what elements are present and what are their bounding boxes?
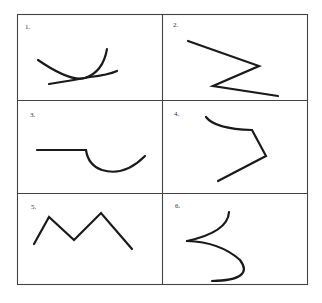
- cell-6-upper-curve: [187, 212, 229, 241]
- cell-2: 2.: [173, 21, 278, 96]
- cell-4-label: 4.: [174, 110, 180, 118]
- cell-1-arc-a: [38, 49, 107, 79]
- cell-6-lower-curve: [187, 241, 244, 281]
- cell-1: 1.: [25, 23, 117, 84]
- cell-4-bent-line: [206, 117, 266, 181]
- cell-6-label: 6.: [175, 202, 181, 210]
- cell-5: 5.: [31, 203, 132, 249]
- cell-6: 6.: [175, 202, 244, 281]
- cell-2-label: 2.: [173, 21, 179, 29]
- cell-3-hook: [37, 150, 145, 172]
- cell-3: 3.: [30, 111, 145, 172]
- cell-1-label: 1.: [25, 23, 31, 31]
- cell-4: 4.: [174, 110, 266, 181]
- cell-5-zigzag: [34, 213, 132, 249]
- cell-3-label: 3.: [30, 111, 36, 119]
- cell-2-zigzag: [188, 41, 278, 96]
- cell-5-label: 5.: [31, 203, 37, 211]
- figure-grid: 1. 2. 3. 4. 5. 6.: [0, 0, 322, 303]
